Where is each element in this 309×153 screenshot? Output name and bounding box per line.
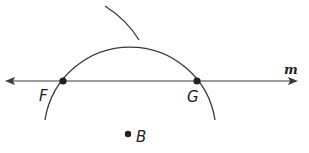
point-label-f: F xyxy=(39,87,48,105)
line-label-m: m xyxy=(284,62,298,77)
point-b xyxy=(125,131,131,137)
point-g xyxy=(193,77,200,84)
point-label-g: G xyxy=(187,88,199,106)
large-arc xyxy=(45,47,215,120)
point-f xyxy=(59,77,66,84)
small-arc xyxy=(105,6,139,40)
construction-diagram: m F G B xyxy=(0,0,309,153)
diagram-canvas: m F G B xyxy=(0,0,309,153)
point-label-b: B xyxy=(136,128,146,146)
